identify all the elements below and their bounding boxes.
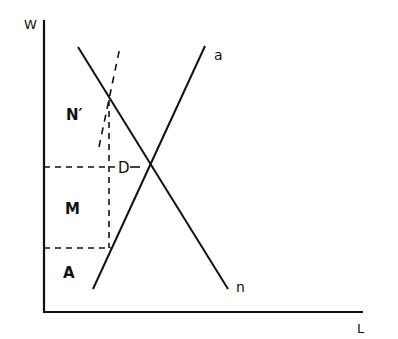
- demand-curve-label: n: [236, 279, 245, 295]
- supply-curve-a: [93, 46, 205, 289]
- supply-curve-label: a: [214, 47, 223, 63]
- supply-demand-diagram: W L a n D N′ M A: [0, 0, 398, 339]
- region-label-m: M: [65, 200, 80, 218]
- region-label-a: A: [63, 264, 75, 282]
- y-axis-label: W: [24, 17, 37, 32]
- x-axis-label: L: [357, 321, 365, 336]
- demand-curve-n: [78, 47, 228, 289]
- region-label-n-prime: N′: [66, 106, 83, 124]
- equilibrium-point-label: D: [118, 159, 130, 177]
